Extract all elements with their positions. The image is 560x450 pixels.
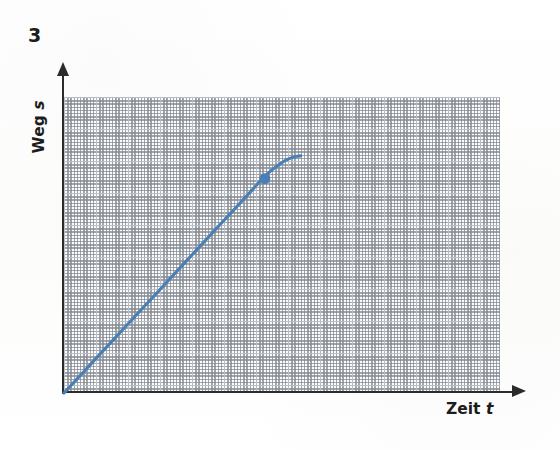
x-axis-label-text: Zeit	[446, 400, 480, 418]
y-axis-arrow-icon	[57, 62, 69, 76]
x-axis-arrow-icon	[512, 385, 526, 397]
y-axis-label-symbol: s	[30, 101, 48, 110]
y-axis-line	[62, 70, 64, 394]
x-axis-label-symbol: t	[486, 400, 493, 418]
grid-major	[64, 97, 500, 393]
x-axis-line	[62, 391, 514, 393]
exercise-number: 3	[28, 24, 41, 46]
graph-figure: 3	[0, 0, 560, 450]
plot-area	[64, 97, 500, 393]
y-axis-label: Weg s	[30, 82, 48, 172]
y-axis-label-text: Weg	[30, 115, 48, 153]
x-axis-label: Zeit t	[446, 400, 493, 418]
